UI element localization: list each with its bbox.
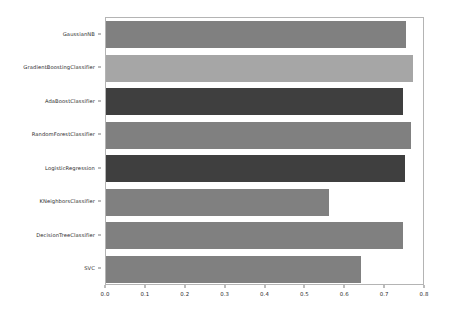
y-tick-mark bbox=[98, 100, 101, 101]
x-tick-mark bbox=[184, 285, 185, 288]
x-tick-mark bbox=[304, 285, 305, 288]
bar bbox=[106, 55, 413, 82]
y-tick-label: DecisionTreeClassifier bbox=[36, 232, 95, 238]
x-axis-tick-labels: 0.00.10.20.30.40.50.60.70.8 bbox=[105, 285, 424, 309]
y-tick-label: RandomForestClassifier bbox=[32, 131, 95, 137]
plot-area bbox=[105, 17, 424, 285]
x-tick-label: 0.8 bbox=[420, 291, 429, 297]
x-tick-mark bbox=[264, 285, 265, 288]
bar bbox=[106, 88, 403, 115]
x-tick-label: 0.3 bbox=[220, 291, 229, 297]
x-tick-label: 0.0 bbox=[101, 291, 110, 297]
y-tick-label: GaussianNB bbox=[63, 31, 95, 37]
x-tick-mark bbox=[344, 285, 345, 288]
x-tick-label: 0.1 bbox=[140, 291, 149, 297]
x-tick-label: 0.4 bbox=[260, 291, 269, 297]
y-tick-mark bbox=[98, 201, 101, 202]
bars-layer bbox=[106, 18, 423, 284]
y-tick-label: AdaBoostClassifier bbox=[45, 98, 95, 104]
bar bbox=[106, 122, 411, 149]
bar bbox=[106, 189, 329, 216]
y-tick-mark bbox=[98, 67, 101, 68]
x-tick-label: 0.2 bbox=[180, 291, 189, 297]
x-tick-mark bbox=[105, 285, 106, 288]
y-axis-tick-labels: GaussianNBGradientBoostingClassifierAdaB… bbox=[0, 17, 101, 285]
x-tick-mark bbox=[144, 285, 145, 288]
y-tick-mark bbox=[98, 167, 101, 168]
bar bbox=[106, 21, 406, 48]
x-tick-mark bbox=[224, 285, 225, 288]
bar bbox=[106, 155, 405, 182]
y-tick-mark bbox=[98, 134, 101, 135]
x-tick-mark bbox=[424, 285, 425, 288]
y-tick-label: SVC bbox=[84, 265, 95, 271]
bar bbox=[106, 222, 403, 249]
y-tick-mark bbox=[98, 234, 101, 235]
y-tick-mark bbox=[98, 33, 101, 34]
x-tick-label: 0.5 bbox=[300, 291, 309, 297]
y-tick-label: GradientBoostingClassifier bbox=[23, 64, 95, 70]
x-tick-mark bbox=[384, 285, 385, 288]
y-tick-label: KNeighborsClassifier bbox=[39, 198, 95, 204]
bar bbox=[106, 256, 361, 283]
x-tick-label: 0.7 bbox=[380, 291, 389, 297]
bar-chart-figure: GaussianNBGradientBoostingClassifierAdaB… bbox=[0, 0, 460, 314]
y-tick-mark bbox=[98, 268, 101, 269]
x-tick-label: 0.6 bbox=[340, 291, 349, 297]
y-tick-label: LogisticRegression bbox=[45, 165, 95, 171]
